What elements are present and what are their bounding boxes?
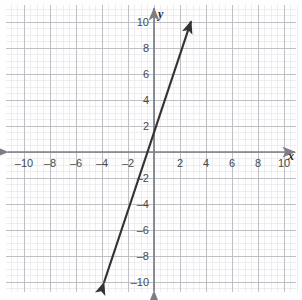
grid-major-lines bbox=[6, 5, 296, 292]
x-tick-label: 4 bbox=[203, 158, 209, 169]
y-tick-label: 10 bbox=[137, 17, 149, 28]
x-tick-label: –8 bbox=[44, 158, 56, 169]
y-axis-label: y bbox=[158, 8, 163, 20]
y-tick-label: 2 bbox=[143, 121, 149, 132]
y-tick-label: –10 bbox=[131, 277, 149, 288]
y-tick-label: 4 bbox=[143, 95, 149, 106]
x-tick-label: –6 bbox=[70, 158, 82, 169]
x-tick-label: –4 bbox=[96, 158, 108, 169]
x-tick-label: 2 bbox=[177, 158, 183, 169]
y-tick-label: –2 bbox=[137, 173, 149, 184]
x-axis-label: x bbox=[288, 150, 294, 162]
graph-canvas bbox=[0, 0, 302, 300]
axes-lines bbox=[8, 8, 295, 291]
x-tick-label: 8 bbox=[255, 158, 261, 169]
y-tick-label: –6 bbox=[137, 225, 149, 236]
y-tick-label: –8 bbox=[137, 251, 149, 262]
x-tick-label: –2 bbox=[122, 158, 134, 169]
x-tick-label: –10 bbox=[15, 158, 33, 169]
y-tick-label: 6 bbox=[143, 69, 149, 80]
y-tick-label: –4 bbox=[137, 199, 149, 210]
coordinate-plane-figure: –10–8–6–4–2246810 108642–2–4–6–8–10 y x bbox=[0, 0, 302, 300]
y-tick-label: 8 bbox=[143, 43, 149, 54]
x-tick-label: 6 bbox=[229, 158, 235, 169]
